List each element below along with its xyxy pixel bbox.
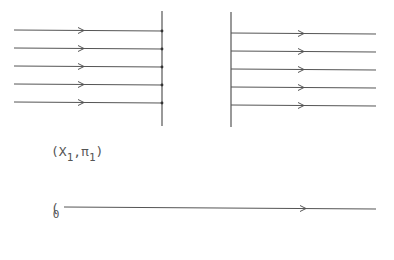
contact-dot: [161, 48, 164, 51]
origin-label: (0: [51, 202, 59, 220]
incoming-ray: [14, 102, 162, 103]
state-label-pi: ,π: [73, 144, 89, 159]
ray-diagram: [0, 0, 394, 260]
contact-dot: [161, 30, 164, 33]
state-label-x: (X: [51, 144, 67, 159]
origin-label-sub: 0: [53, 208, 60, 221]
state-label-sub2: 1: [89, 151, 96, 164]
incoming-ray: [14, 84, 162, 85]
incoming-ray: [14, 48, 162, 49]
contact-dot: [161, 66, 164, 69]
state-label-close: ): [96, 144, 104, 159]
incoming-ray: [14, 66, 162, 67]
bottom-ray: [64, 207, 376, 209]
incoming-ray: [14, 30, 162, 31]
contact-dot: [161, 84, 164, 87]
state-label: (X1,π1): [51, 145, 103, 163]
contact-dot: [161, 102, 164, 105]
